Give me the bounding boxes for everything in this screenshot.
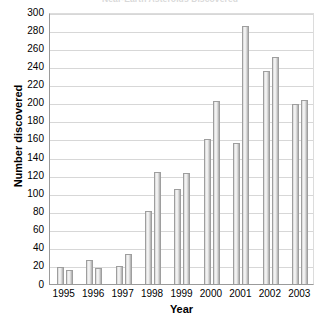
bar-group	[256, 14, 285, 284]
x-axis-tick: 2003	[277, 288, 320, 299]
y-axis-tick: 280	[14, 26, 44, 36]
y-axis-tick: 20	[14, 261, 44, 271]
bar[interactable]	[125, 254, 132, 284]
y-axis-tick: 40	[14, 243, 44, 253]
y-axis-tick: 60	[14, 225, 44, 235]
bar[interactable]	[233, 143, 240, 284]
y-axis-tick: 200	[14, 98, 44, 108]
bar-group	[286, 14, 315, 284]
bar-group	[109, 14, 138, 284]
bar[interactable]	[204, 139, 211, 284]
bar-group	[227, 14, 256, 284]
bar-group	[197, 14, 226, 284]
bar-group	[79, 14, 108, 284]
y-axis-tick: 0	[14, 280, 44, 290]
bar-chart: Near-Earth Asteroids Discovered Number d…	[0, 0, 320, 320]
bar[interactable]	[174, 189, 181, 284]
y-axis-tick: 100	[14, 189, 44, 199]
bar[interactable]	[263, 71, 270, 284]
bar[interactable]	[145, 211, 152, 284]
x-axis-label: Year	[49, 303, 314, 315]
y-axis-tick: 300	[14, 8, 44, 18]
bar-group	[138, 14, 167, 284]
bar[interactable]	[57, 267, 64, 284]
y-axis-tick: 140	[14, 153, 44, 163]
y-axis-tick: 120	[14, 171, 44, 181]
bar[interactable]	[154, 172, 161, 284]
bar[interactable]	[86, 260, 93, 284]
plot-area	[49, 13, 314, 285]
bar-series	[50, 14, 313, 284]
y-axis-tick: 220	[14, 80, 44, 90]
y-axis-tick: 80	[14, 207, 44, 217]
y-axis-tick: 160	[14, 134, 44, 144]
bar[interactable]	[183, 173, 190, 284]
bar[interactable]	[272, 57, 279, 284]
bar-group	[50, 14, 79, 284]
chart-title: Near-Earth Asteroids Discovered	[60, 0, 280, 3]
y-axis-tick: 260	[14, 44, 44, 54]
bar[interactable]	[213, 101, 220, 284]
bar[interactable]	[242, 26, 249, 284]
bar[interactable]	[292, 104, 299, 284]
bar[interactable]	[301, 100, 308, 284]
y-axis-tick: 180	[14, 116, 44, 126]
bar-group	[168, 14, 197, 284]
bar[interactable]	[66, 270, 73, 284]
bar[interactable]	[116, 266, 123, 284]
bar[interactable]	[95, 268, 102, 284]
y-axis-tick: 240	[14, 62, 44, 72]
